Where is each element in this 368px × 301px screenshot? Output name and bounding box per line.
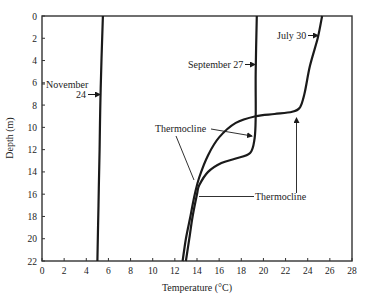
temperature-profile-curves (97, 16, 322, 261)
y-tick-label: 10 (28, 123, 38, 133)
x-tick-label: 10 (148, 266, 158, 276)
y-tick-label: 2 (32, 34, 37, 44)
x-tick-label: 26 (325, 266, 335, 276)
y-tick-label: 20 (28, 234, 38, 244)
y-tick-label: 0 (32, 12, 37, 22)
x-tick-label: 12 (170, 266, 180, 276)
y-tick-label: 8 (32, 101, 37, 111)
x-tick-label: 28 (347, 266, 357, 276)
temperature-depth-chart: 0246810121416182022242628 02468101214161… (0, 0, 368, 301)
november-24-profile-curve (97, 16, 103, 261)
thermocline-leader-july (176, 136, 194, 180)
thermocline-label-lower: Thermocline (255, 191, 307, 202)
x-tick-label: 14 (192, 266, 202, 276)
x-tick-label: 0 (40, 266, 45, 276)
x-tick-label: 22 (281, 266, 291, 276)
x-tick-label: 16 (214, 266, 224, 276)
september-label: September 27 (188, 59, 243, 70)
x-tick-label: 20 (259, 266, 269, 276)
y-tick-label: 22 (28, 257, 38, 267)
november-date-label: 24 (76, 89, 86, 100)
x-tick-label: 18 (237, 266, 247, 276)
x-tick-label: 8 (128, 266, 133, 276)
x-tick-label: 6 (106, 266, 111, 276)
x-tick-label: 2 (62, 266, 67, 276)
x-axis-title: Temperature (°C) (162, 282, 232, 294)
y-tick-label: 4 (32, 56, 37, 66)
july-label: July 30 (277, 30, 306, 41)
thermocline-label-upper: Thermocline (155, 123, 207, 134)
x-tick-label: 24 (303, 266, 313, 276)
y-tick-label: 16 (28, 190, 38, 200)
y-tick-label: 6 (32, 78, 37, 88)
plot-frame (42, 16, 352, 261)
y-axis-title: Depth (m) (4, 117, 16, 158)
september-27-profile-curve (186, 16, 257, 261)
y-tick-label: 14 (28, 167, 38, 177)
y-tick-label: 18 (28, 212, 38, 222)
x-tick-label: 4 (84, 266, 89, 276)
july-30-profile-curve (183, 16, 323, 261)
thermocline-arrow-september (211, 129, 252, 136)
y-tick-label: 12 (28, 145, 38, 155)
